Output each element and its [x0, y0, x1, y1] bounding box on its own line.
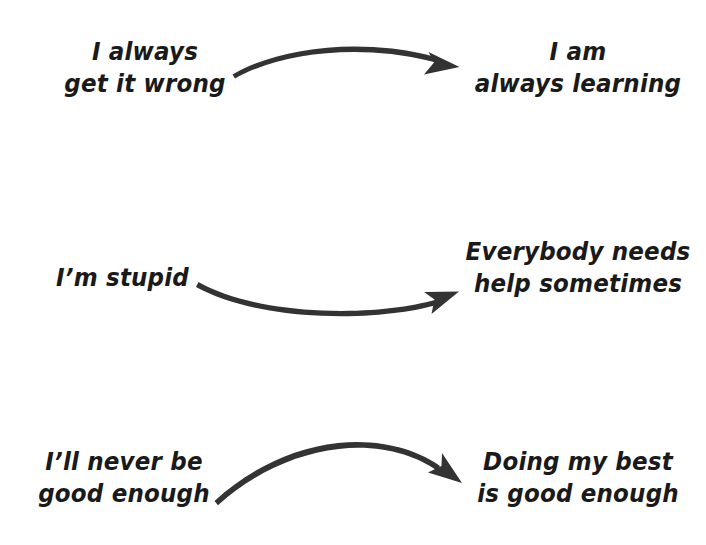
negative-thought-1: I always get it wrong	[30, 36, 260, 100]
negative-thought-3-line2: good enough	[19, 478, 229, 510]
negative-thought-3-line1: I’ll never be	[19, 446, 229, 478]
negative-thought-1-line1: I always	[30, 36, 260, 68]
positive-reframe-3: Doing my best is good enough	[462, 446, 694, 510]
positive-reframe-2-line1: Everybody needs	[462, 236, 694, 268]
positive-reframe-3-line1: Doing my best	[462, 446, 694, 478]
transition-arrow-3	[215, 442, 463, 505]
positive-reframe-1-line2: always learning	[462, 68, 694, 100]
positive-reframe-1-line1: I am	[462, 36, 694, 68]
negative-thought-2: I’m stupid	[19, 262, 226, 294]
negative-thought-2-line1: I’m stupid	[19, 262, 226, 294]
transition-arrow-1	[233, 46, 460, 78]
negative-thought-1-line2: get it wrong	[30, 68, 260, 100]
positive-reframe-1: I am always learning	[462, 36, 694, 100]
positive-reframe-3-line2: is good enough	[462, 478, 694, 510]
transition-arrow-2	[196, 282, 459, 316]
positive-reframe-2: Everybody needs help sometimes	[462, 236, 694, 300]
negative-thought-3: I’ll never be good enough	[19, 446, 229, 510]
infographic-canvas: I always get it wrong I am always learni…	[0, 0, 706, 545]
positive-reframe-2-line2: help sometimes	[462, 268, 694, 300]
